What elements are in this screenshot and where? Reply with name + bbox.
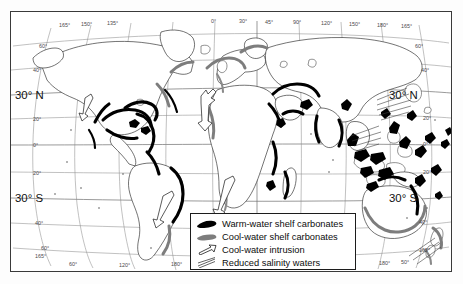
grid-label-lon-top-2: 135° — [107, 20, 118, 26]
grid-label-lon-bot-2: 120° — [119, 262, 130, 268]
grid-label-lat-0: 0° — [33, 142, 38, 148]
grid-label-lon-bot-7: 50° — [401, 259, 409, 265]
grid-label-lon-bot-6: 180° — [379, 260, 390, 266]
legend-item-warm: Warm-water shelf carbonates — [195, 217, 351, 230]
grid-label-lon-top-9: 180° — [377, 22, 388, 28]
grid-label-lon-top-4: 30° — [239, 18, 247, 24]
legend-label-warm: Warm-water shelf carbonates — [222, 218, 343, 230]
grid-label-lon-top-0: 165° — [59, 22, 70, 28]
grid-label-lon-top-1: 150° — [81, 21, 92, 27]
legend-item-intrusion: Cool-water intrusion — [195, 243, 351, 256]
grid-label-lon-top-8: 150° — [349, 21, 360, 27]
cool-bar-icon — [195, 231, 219, 243]
grid-label-lon-top-6: 90° — [293, 19, 301, 25]
intrusion-arrow-icon — [195, 244, 219, 256]
grid-label-lat-40s-right: 40° — [419, 219, 427, 225]
grid-label-lon-bot-0: 165° — [35, 253, 46, 259]
lat-label-30s-left: 30° S — [15, 192, 43, 204]
grid-label-lat-0-right: 0° — [423, 141, 428, 147]
legend-label-cool: Cool-water shelf carbonates — [222, 231, 338, 243]
warm-bar-icon — [195, 218, 219, 230]
salinity-hatch-icon — [195, 257, 219, 269]
grid-label-lat-40s: 40° — [35, 220, 43, 226]
legend-item-salinity: Reduced salinity waters — [195, 256, 351, 269]
grid-label-lon-top-3: 0° — [211, 18, 216, 24]
grid-label-lon-top-7: 120° — [321, 20, 332, 26]
lat-label-30s-right: 30° S — [389, 192, 417, 204]
grid-label-lat-40n: 40° — [33, 67, 41, 73]
grid-label-lon-bot-1: 60° — [69, 261, 77, 267]
grid-label-lon-bot-3: 180° — [171, 261, 182, 267]
grid-label-lon-bot-8: 165° — [419, 247, 430, 253]
grid-label-lat-20s: 20° — [33, 170, 41, 176]
grid-label-lat-40n-right: 40° — [421, 67, 429, 73]
map-legend: Warm-water shelf carbonates Cool-water s… — [190, 213, 356, 270]
grid-label-lat-20n: 20° — [33, 116, 41, 122]
lat-label-30n-right: 30° N — [389, 89, 418, 101]
grid-label-lat-60n-right: 60° — [415, 43, 423, 49]
grid-label-lat-60s: 60° — [41, 245, 49, 251]
legend-label-intrusion: Cool-water intrusion — [222, 244, 305, 256]
legend-item-cool: Cool-water shelf carbonates — [195, 230, 351, 243]
figure-canvas: 60° 40° 20° 0° 20° 40° 60° 60° 40° 20° 0… — [0, 0, 463, 284]
grid-label-lon-top-10: 165° — [401, 23, 412, 29]
grid-label-lat-20n-right: 20° — [423, 115, 431, 121]
grid-label-lat-60n: 60° — [39, 43, 47, 49]
lat-label-30n-left: 30° N — [15, 89, 44, 101]
grid-label-lat-20s-right: 20° — [423, 169, 431, 175]
legend-label-salinity: Reduced salinity waters — [222, 257, 320, 269]
grid-label-lon-top-5: 45° — [265, 19, 273, 25]
